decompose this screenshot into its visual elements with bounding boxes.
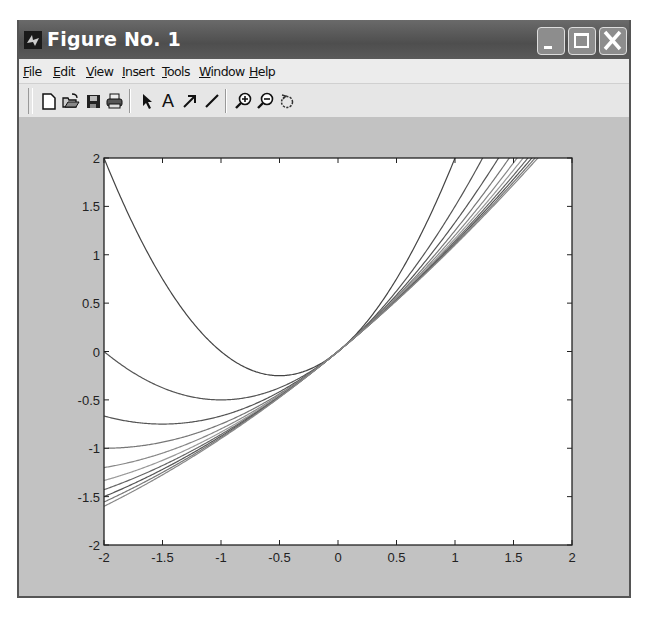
menu-insert[interactable]: Insert: [122, 64, 154, 79]
insert-line-icon: [204, 93, 220, 109]
y-tick-label: 2: [93, 151, 100, 166]
edit-plot-button[interactable]: [137, 90, 157, 112]
toolbar: A: [19, 83, 629, 118]
menu-help[interactable]: Help: [249, 64, 275, 79]
menu-view[interactable]: View: [86, 64, 113, 79]
new-figure-button[interactable]: [39, 90, 59, 112]
y-tick-label: 1.5: [82, 199, 100, 214]
print-icon: [106, 93, 123, 109]
x-tick-label: -1: [215, 550, 227, 565]
zoom-in-button[interactable]: [233, 90, 253, 112]
save-button[interactable]: [83, 90, 103, 112]
line-chart[interactable]: -2-1.5-1-0.500.511.52-2-1.5-1-0.500.511.…: [19, 117, 631, 596]
figure-canvas: -2-1.5-1-0.500.511.52-2-1.5-1-0.500.511.…: [19, 117, 629, 596]
close-icon: [600, 28, 625, 53]
y-tick-label: 0.5: [82, 296, 100, 311]
save-icon: [86, 94, 101, 109]
insert-arrow-button[interactable]: [180, 90, 200, 112]
x-tick-label: 1.5: [504, 550, 522, 565]
menu-tools[interactable]: Tools: [162, 64, 190, 79]
rotate-icon: [279, 93, 295, 109]
menu-window[interactable]: Window: [199, 64, 245, 79]
insert-arrow-icon: [182, 93, 198, 109]
rotate-3d-button[interactable]: [277, 90, 297, 112]
toolbar-separator: [225, 89, 227, 113]
toolbar-grip[interactable]: [28, 88, 33, 114]
maximize-icon: [574, 33, 589, 48]
zoom-out-button[interactable]: [255, 90, 275, 112]
x-tick-label: -1.5: [151, 550, 173, 565]
minimize-icon: [544, 46, 552, 49]
minimize-button[interactable]: [537, 27, 565, 55]
insert-text-button[interactable]: A: [158, 90, 178, 112]
y-tick-label: -2: [88, 538, 100, 553]
x-tick-label: 0.5: [387, 550, 405, 565]
window-title: Figure No. 1: [47, 28, 181, 50]
x-tick-label: 2: [568, 550, 575, 565]
toolbar-separator: [129, 89, 131, 113]
print-button[interactable]: [104, 90, 124, 112]
title-bar[interactable]: Figure No. 1: [19, 20, 629, 59]
close-button[interactable]: [599, 27, 627, 55]
figure-window: Figure No. 1 File Edit View Insert Tools…: [17, 20, 631, 598]
menu-edit[interactable]: Edit: [53, 64, 75, 79]
y-tick-label: -1: [88, 441, 100, 456]
insert-line-button[interactable]: [202, 90, 222, 112]
select-arrow-icon: [141, 93, 153, 110]
menu-bar: File Edit View Insert Tools Window Help: [19, 59, 629, 83]
y-tick-label: -1.5: [78, 490, 100, 505]
x-tick-label: 0: [334, 550, 341, 565]
y-tick-label: 1: [93, 248, 100, 263]
open-file-button[interactable]: [61, 90, 81, 112]
x-tick-label: -0.5: [268, 550, 290, 565]
new-file-icon: [42, 93, 56, 110]
maximize-button[interactable]: [568, 27, 596, 55]
y-tick-label: -0.5: [78, 393, 100, 408]
zoom-in-icon: [234, 92, 252, 110]
x-tick-label: 1: [451, 550, 458, 565]
menu-file[interactable]: File: [23, 64, 42, 79]
open-folder-icon: [62, 93, 80, 109]
insert-text-icon: A: [162, 91, 174, 112]
matlab-figure-icon: [24, 31, 42, 49]
y-tick-label: 0: [93, 345, 100, 360]
zoom-out-icon: [256, 92, 274, 110]
